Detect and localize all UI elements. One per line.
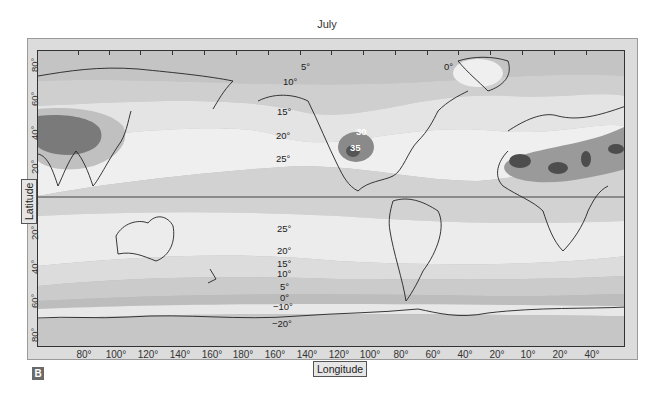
isotherm-label: −10°	[273, 301, 293, 312]
tick-mark	[522, 50, 523, 55]
x-tick-label: 160°	[202, 349, 223, 360]
y-tick-label: 40°	[29, 126, 40, 140]
isotherm-label: 10°	[277, 268, 291, 279]
x-tick-label: 80°	[76, 349, 91, 360]
x-tick-label: 120°	[138, 349, 159, 360]
y-tick-label: 40°	[29, 260, 40, 274]
tick-mark	[172, 50, 173, 55]
x-tick-label: 60°	[425, 349, 440, 360]
isotherm-label: 20°	[276, 130, 290, 141]
tick-mark	[331, 50, 332, 55]
isotherm-label: 15°	[277, 106, 291, 117]
isotherm-bands	[38, 51, 625, 347]
x-tick-label: 100°	[106, 349, 127, 360]
world-isotherm-map	[37, 50, 625, 347]
y-tick-label: 80°	[29, 58, 40, 72]
x-tick-label: 80°	[393, 349, 408, 360]
tick-mark	[268, 50, 269, 55]
y-tick-label: 80°	[29, 328, 40, 342]
x-tick-label: 160°	[265, 349, 286, 360]
latitude-axis-label: Latitude	[21, 179, 37, 224]
isotherm-label: 0°	[444, 61, 453, 72]
isotherm-label: 5°	[301, 61, 310, 72]
isotherm-label: 20°	[277, 245, 291, 256]
x-tick-label: 10°	[520, 349, 535, 360]
tick-mark	[140, 50, 141, 55]
tick-mark	[109, 50, 110, 55]
isotherm-label: 5°	[280, 281, 289, 292]
tick-mark	[300, 50, 301, 55]
panel-badge: B	[32, 367, 44, 380]
x-tick-label: 140°	[297, 349, 318, 360]
y-tick-label: 20°	[29, 160, 40, 174]
x-tick-label: 100°	[360, 349, 381, 360]
y-tick-label: 60°	[29, 294, 40, 308]
isotherm-label: 10°	[283, 76, 297, 87]
x-tick-label: 20°	[552, 349, 567, 360]
y-tick-label: 20°	[29, 226, 40, 240]
tick-mark	[490, 50, 491, 55]
tick-mark	[586, 50, 587, 55]
tick-mark	[236, 50, 237, 55]
x-tick-label: 40°	[584, 349, 599, 360]
isotherm-label: −20°	[272, 318, 292, 329]
tick-mark	[395, 50, 396, 55]
tick-mark	[554, 50, 555, 55]
tick-mark	[427, 50, 428, 55]
tick-mark	[458, 50, 459, 55]
y-tick-label: 60°	[29, 92, 40, 106]
x-tick-label: 120°	[329, 349, 350, 360]
tick-mark	[204, 50, 205, 55]
isotherm-label: 25°	[276, 153, 290, 164]
x-tick-label: 20°	[489, 349, 504, 360]
x-tick-label: 180°	[233, 349, 254, 360]
map-title: July	[0, 18, 654, 30]
tick-mark	[363, 50, 364, 55]
isotherm-label: 25°	[277, 223, 291, 234]
tick-mark	[78, 50, 79, 55]
longitude-axis-label: Longitude	[313, 361, 367, 377]
isotherm-label: 35	[350, 142, 361, 153]
isotherm-label: 30	[356, 126, 367, 137]
x-tick-label: 140°	[170, 349, 191, 360]
x-tick-label: 40°	[457, 349, 472, 360]
